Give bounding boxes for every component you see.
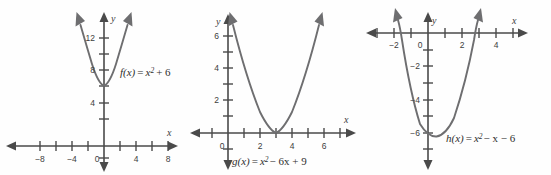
graph-panel-f: −8 −4 0 4 8 12 8 4 x y f(x)=x2+ 6 [0,0,184,175]
equation-h-fname: h(x) [446,132,464,145]
x-axis-label-f: x [166,127,172,138]
x-tick-label-h-2: 2 [460,40,465,50]
y-tick-label-h-neg2: −2 [410,61,420,71]
x-tick-label-f-neg4: −4 [67,154,77,164]
x-tick-label-h-neg2: −2 [389,40,399,50]
y-tick-label-h-neg6: −6 [410,128,420,138]
y-axis-label-f: y [110,13,116,24]
y-tick-label-f-8: 8 [90,65,95,75]
y-tick-label-f-12: 12 [86,33,96,43]
y-axis-h [424,12,433,170]
x-tick-label-f-neg8: −8 [35,154,45,164]
equation-g-fname: g(x) [232,155,250,168]
x-tick-label-g-4: 4 [290,141,295,151]
equation-label-h: h(x)=x2− x − 6 [446,132,516,146]
x-tick-label-f-4: 4 [134,154,139,164]
equation-g-exponent: 2 [265,155,269,164]
curve-h [393,8,483,137]
x-axis-label-g: x [343,114,349,125]
equation-h-rest: − x − 6 [484,132,516,144]
quadratic-graphs-figure: −8 −4 0 4 8 12 8 4 x y f(x)=x2+ 6 [0,0,551,175]
y-tick-label-g-2: 2 [214,95,219,105]
y-axis-g [224,14,233,170]
equation-h-exponent: 2 [479,132,483,141]
y-tick-label-g-6: 6 [214,31,219,41]
y-tick-label-h-neg4: −4 [410,95,420,105]
curve-g [228,12,324,133]
equation-g-rest: − 6x + 9 [270,155,308,167]
x-tick-label-g-2: 2 [258,141,263,151]
equation-label-g: g(x)=x2− 6x + 9 [232,155,307,169]
y-tick-label-f-4: 4 [90,98,95,108]
equation-f-rest: + 6 [156,66,171,78]
x-axis-g [190,129,356,138]
x-tick-label-h-4: 4 [494,40,499,50]
y-axis-label-h: y [431,15,437,26]
y-axis-label-g: y [215,16,221,27]
equation-f-exponent: 2 [150,66,154,75]
x-tick-label-g-0: 0 [220,141,225,151]
y-tick-label-g-4: 4 [214,63,219,73]
x-axis-label-h: x [511,15,517,26]
graph-panel-h: −2 0 2 4 −2 −4 −6 x y h(x)=x2− x − 6 [360,0,551,175]
x-tick-label-f-0: 0 [95,154,100,164]
equation-h-equals: = [466,132,472,144]
equation-label-f: f(x)=x2+ 6 [120,66,171,80]
graph-panel-g: 0 2 4 6 6 4 2 x y g(x)=x2− 6x + 9 [180,0,370,175]
equation-g-equals: = [252,155,258,167]
x-tick-label-f-8: 8 [166,154,171,164]
equation-f-equals: = [137,66,143,78]
x-tick-label-h-0: 0 [418,40,423,50]
x-tick-label-g-6: 6 [322,141,327,151]
equation-f-fname: f(x) [120,66,136,79]
x-axis-h [366,29,528,38]
y-axis-f [100,12,109,172]
